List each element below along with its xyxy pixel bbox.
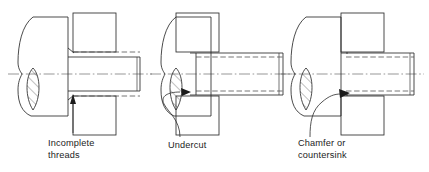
view-undercut: Undercut — [150, 13, 296, 150]
label-undercut-line1: Undercut — [168, 140, 207, 150]
label-incomplete-threads-line1: Incomplete — [48, 138, 94, 148]
head-upper-contour — [291, 17, 341, 74]
head-upper-contour — [161, 17, 211, 74]
leader-arrowhead — [181, 88, 191, 96]
plate-block-lower — [341, 96, 384, 135]
drawing-canvas: Incomplete threads — [0, 0, 429, 172]
plate-block-lower — [176, 96, 219, 135]
view-chamfer-countersink: Chamfer or countersink — [281, 13, 424, 160]
plate-block-lower — [73, 96, 116, 135]
leader-arrowhead — [70, 94, 76, 104]
plate-block-upper — [341, 13, 384, 52]
label-chamfer-line1: Chamfer or — [298, 138, 345, 148]
label-incomplete-threads-line2: threads — [48, 150, 80, 160]
callout-incomplete-threads — [70, 94, 76, 133]
technical-drawing-figure: Incomplete threads — [0, 0, 429, 172]
plate-block-upper — [176, 13, 219, 52]
head-lower-contour — [18, 74, 68, 116]
view-incomplete-threads: Incomplete threads — [8, 13, 152, 160]
head-upper-contour — [18, 17, 68, 74]
plate-block-upper — [73, 13, 116, 52]
label-chamfer-line2: countersink — [298, 150, 347, 160]
leader-arrowhead — [339, 89, 350, 98]
